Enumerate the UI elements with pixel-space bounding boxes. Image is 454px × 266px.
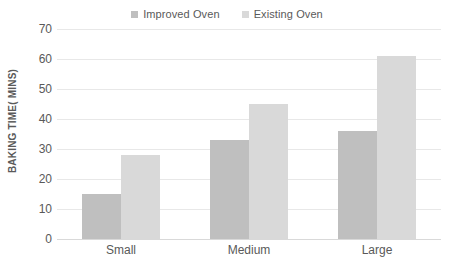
y-axis-tick-label: 40 (39, 112, 52, 126)
legend-item-improved-oven[interactable]: Improved Oven (131, 8, 220, 20)
legend-label-existing-oven: Existing Oven (254, 8, 323, 20)
bar[interactable] (121, 155, 160, 239)
bar-group (313, 29, 441, 239)
x-axis-tick-label: Small (106, 243, 136, 257)
bar[interactable] (210, 140, 249, 239)
y-axis-tick-label: 0 (45, 232, 52, 246)
x-axis-tick-label: Large (362, 243, 393, 257)
square-swatch-icon (131, 11, 138, 18)
y-axis-tick-label: 10 (39, 202, 52, 216)
x-axis-tick-label: Medium (228, 243, 271, 257)
bar[interactable] (249, 104, 288, 239)
y-axis-tick-label: 60 (39, 52, 52, 66)
bar[interactable] (338, 131, 377, 239)
square-swatch-icon (242, 11, 249, 18)
y-axis-tick-label: 50 (39, 82, 52, 96)
bar-group (185, 29, 313, 239)
bar-chart: Improved Oven Existing Oven BAKING TIME(… (0, 0, 454, 266)
gridline (57, 239, 441, 240)
bars-layer (57, 29, 441, 239)
x-axis-tick-labels: SmallMediumLarge (57, 243, 441, 263)
y-axis-title: BAKING TIME( MINS) (0, 0, 24, 245)
legend-label-improved-oven: Improved Oven (143, 8, 220, 20)
bar[interactable] (82, 194, 121, 239)
legend-item-existing-oven[interactable]: Existing Oven (242, 8, 323, 20)
y-axis-tick-labels: 010203040506070 (22, 29, 52, 239)
chart-legend: Improved Oven Existing Oven (0, 6, 454, 22)
plot-area (57, 29, 441, 239)
bar[interactable] (377, 56, 416, 239)
y-axis-tick-label: 20 (39, 172, 52, 186)
y-axis-tick-label: 70 (39, 22, 52, 36)
bar-group (57, 29, 185, 239)
y-axis-title-text: BAKING TIME( MINS) (7, 51, 18, 173)
y-axis-tick-label: 30 (39, 142, 52, 156)
